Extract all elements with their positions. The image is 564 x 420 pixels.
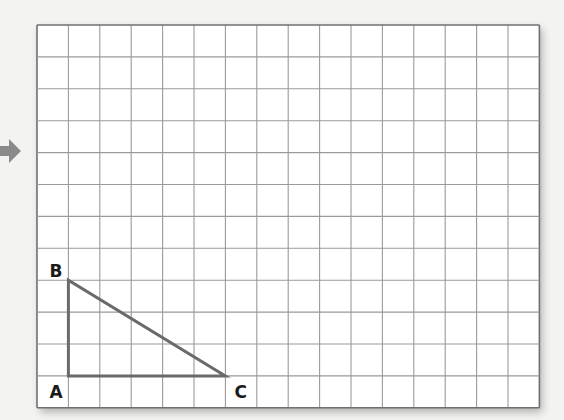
arrow-right-icon: [0, 139, 21, 163]
triangle-abc: [68, 280, 225, 376]
grid-overlay: [0, 0, 564, 420]
vertex-label-a: A: [49, 384, 62, 401]
vertex-label-c: C: [234, 384, 246, 401]
diagram-canvas: A B C: [0, 0, 564, 420]
vertex-label-b: B: [49, 263, 62, 280]
grid-lines: [37, 25, 539, 408]
